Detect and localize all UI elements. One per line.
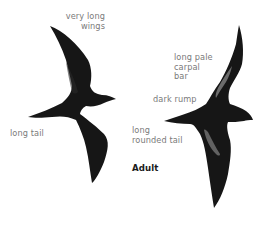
- bird-illustration-figure: very long wings long tail long pale carp…: [0, 0, 275, 233]
- label-dark-rump: dark rump: [153, 95, 197, 105]
- caption-adult: Adult: [132, 164, 158, 174]
- label-line: wings: [60, 22, 105, 32]
- label-line: rounded tail: [132, 136, 183, 146]
- label-very-long-wings: very long wings: [60, 12, 105, 31]
- bird-silhouettes: [0, 0, 275, 233]
- label-long-tail: long tail: [10, 129, 44, 139]
- label-long-pale-carpal-bar: long pale carpal bar: [174, 53, 213, 82]
- label-long-rounded-tail: long rounded tail: [132, 126, 183, 145]
- label-line: bar: [174, 72, 213, 82]
- left-bird-silhouette: [28, 26, 116, 183]
